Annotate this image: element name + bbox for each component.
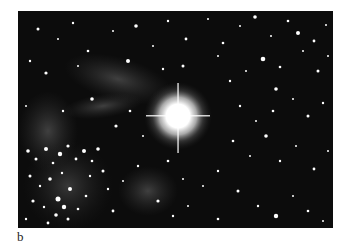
astronomical-photo	[18, 11, 333, 228]
bright-star	[144, 82, 212, 153]
star-field	[18, 11, 333, 228]
panel-label: b	[17, 229, 24, 245]
